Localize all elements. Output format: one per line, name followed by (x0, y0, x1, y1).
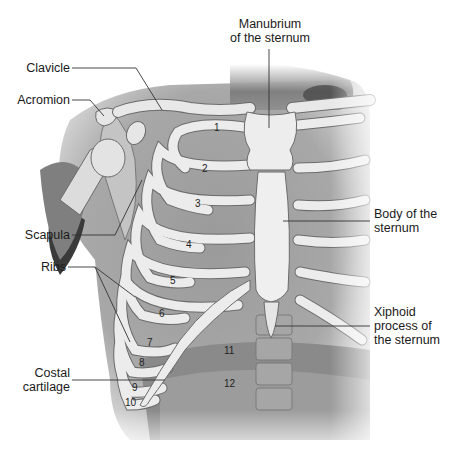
rib-number-6: 6 (159, 309, 165, 319)
label-xiphoid-line3: the sternum (374, 333, 440, 347)
label-body-sternum: Body of the sternum (374, 207, 437, 235)
rib-cage-diagram: Manubrium of the sternum Clavicle Acromi… (0, 0, 461, 460)
label-ribs: Ribs (0, 260, 66, 274)
rib-number-12: 12 (224, 379, 235, 389)
label-xiphoid-line1: Xiphoid (374, 305, 440, 319)
label-costal-line2: cartilage (0, 380, 70, 394)
rib-number-10: 10 (125, 398, 136, 408)
rib-number-2: 2 (202, 164, 208, 174)
label-costal-cartilage: Costal cartilage (0, 366, 70, 394)
rib-number-1: 1 (214, 123, 220, 133)
rib-number-11: 11 (224, 346, 234, 356)
rib-number-9: 9 (132, 383, 138, 393)
label-xiphoid-line2: process of (374, 319, 440, 333)
label-costal-line1: Costal (0, 366, 70, 380)
label-body-sternum-line2: sternum (374, 221, 437, 235)
label-manubrium-line1: Manubrium (230, 17, 310, 31)
rib-number-8: 8 (139, 358, 145, 368)
rib-number-4: 4 (186, 240, 192, 250)
label-body-sternum-line1: Body of the (374, 207, 437, 221)
label-xiphoid: Xiphoid process of the sternum (374, 305, 440, 347)
label-clavicle: Clavicle (0, 61, 70, 75)
rib-number-5: 5 (170, 276, 176, 286)
rib-number-7: 7 (147, 338, 153, 348)
label-manubrium-line2: of the sternum (230, 31, 310, 45)
label-scapula: Scapula (0, 228, 70, 242)
label-manubrium: Manubrium of the sternum (230, 17, 310, 45)
label-acromion: Acromion (0, 93, 70, 107)
rib-number-3: 3 (195, 199, 201, 209)
